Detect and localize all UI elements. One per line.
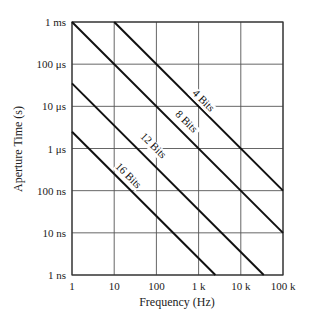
y-tick-label: 1 ns xyxy=(48,269,66,281)
y-tick-label: 1 μs xyxy=(48,143,66,155)
y-axis-title: Aperture Time (s) xyxy=(11,106,25,192)
x-tick-label: 10 k xyxy=(231,280,251,292)
series-line xyxy=(72,22,283,233)
x-tick-label: 100 k xyxy=(271,280,296,292)
x-axis-ticks: 1101001 k10 k100 k xyxy=(69,280,296,292)
y-tick-label: 10 μs xyxy=(42,100,66,112)
x-tick-label: 10 xyxy=(109,280,121,292)
y-tick-label: 100 μs xyxy=(37,58,66,70)
series-line xyxy=(72,83,264,275)
x-axis-title: Frequency (Hz) xyxy=(139,295,215,309)
series-label: 12 Bits xyxy=(138,130,169,161)
x-tick-label: 1 k xyxy=(192,280,206,292)
x-tick-label: 1 xyxy=(69,280,75,292)
series-line xyxy=(72,132,215,275)
x-tick-label: 100 xyxy=(148,280,165,292)
y-tick-label: 1 ms xyxy=(45,16,66,28)
series-label: 16 Bits xyxy=(113,160,144,191)
y-tick-label: 10 ns xyxy=(42,227,66,239)
y-axis-ticks: 1 ms100 μs10 μs1 μs100 ns10 ns1 ns xyxy=(37,16,66,281)
y-tick-label: 100 ns xyxy=(37,185,66,197)
aperture-time-chart: 4 Bits8 Bits12 Bits16 Bits 1101001 k10 k… xyxy=(0,0,309,326)
